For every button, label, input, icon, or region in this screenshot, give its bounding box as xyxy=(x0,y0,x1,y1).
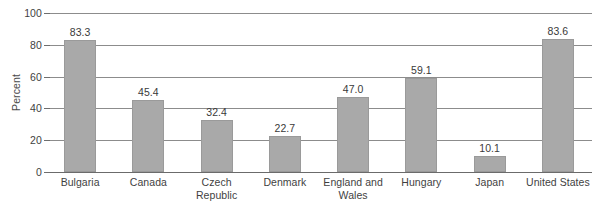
x-category-label: England and Wales xyxy=(319,176,387,201)
bar-value-label: 59.1 xyxy=(411,65,432,76)
y-tick-label: 0 xyxy=(18,167,42,178)
y-tick-mark xyxy=(44,13,50,14)
y-tick-mark xyxy=(44,140,50,141)
y-tick-mark xyxy=(44,108,50,109)
y-tick-label: 80 xyxy=(18,39,42,50)
bar-value-label: 10.1 xyxy=(479,143,500,154)
bar xyxy=(405,78,437,172)
bar-slot: 83.6 xyxy=(524,13,592,172)
bar xyxy=(474,156,506,172)
x-category-label: United States xyxy=(524,176,592,189)
bar xyxy=(542,39,574,172)
bar-slot: 32.4 xyxy=(183,13,251,172)
bar-slot: 10.1 xyxy=(456,13,524,172)
y-axis-tick-labels: 020406080100 xyxy=(18,0,42,212)
bar xyxy=(269,136,301,172)
bar-chart: Percent 020406080100 83.345.432.422.747.… xyxy=(0,0,600,212)
bar-value-label: 22.7 xyxy=(274,123,295,134)
y-tick-label: 40 xyxy=(18,103,42,114)
bar-value-label: 45.4 xyxy=(138,87,159,98)
y-tick-label: 100 xyxy=(18,8,42,19)
x-category-label: Hungary xyxy=(387,176,455,189)
x-category-label: Denmark xyxy=(251,176,319,189)
x-category-label: Bulgaria xyxy=(46,176,114,189)
plot-area: 83.345.432.422.747.059.110.183.6 xyxy=(46,13,592,172)
bar-slot: 22.7 xyxy=(251,13,319,172)
bar-value-label: 32.4 xyxy=(206,107,227,118)
bar-value-label: 83.3 xyxy=(70,27,91,38)
bar-value-label: 83.6 xyxy=(547,26,568,37)
axis-baseline xyxy=(46,172,592,173)
bar xyxy=(64,40,96,172)
y-tick-label: 60 xyxy=(18,71,42,82)
bar-value-label: 47.0 xyxy=(343,84,364,95)
bar-slot: 45.4 xyxy=(114,13,182,172)
x-category-label: Japan xyxy=(456,176,524,189)
bar-slot: 47.0 xyxy=(319,13,387,172)
bar xyxy=(337,97,369,172)
bar-slot: 83.3 xyxy=(46,13,114,172)
y-tick-mark xyxy=(44,77,50,78)
x-axis-category-labels: BulgariaCanadaCzech RepublicDenmarkEngla… xyxy=(46,176,592,210)
y-tick-label: 20 xyxy=(18,135,42,146)
x-category-label: Canada xyxy=(114,176,182,189)
x-category-label: Czech Republic xyxy=(183,176,251,201)
bars: 83.345.432.422.747.059.110.183.6 xyxy=(46,13,592,172)
y-tick-mark xyxy=(44,172,50,173)
bar xyxy=(201,120,233,172)
bar-slot: 59.1 xyxy=(387,13,455,172)
y-tick-mark xyxy=(44,45,50,46)
bar xyxy=(132,100,164,172)
